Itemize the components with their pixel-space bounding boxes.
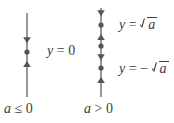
caption-right-value: 0 <box>106 101 113 116</box>
radicand-minus-sqrt-a: a <box>159 62 168 76</box>
right-equilibrium-dot-zero <box>98 43 103 48</box>
label-minus-sqrt-a-sign: − <box>140 61 148 76</box>
left-arrow-up <box>23 61 31 67</box>
radical-tick-icon <box>152 62 158 73</box>
right-arrow-up-upper <box>97 34 105 40</box>
phase-line-figure: y = 0 y = a y = − a a ≤ 0 a > 0 <box>0 0 174 123</box>
radical-minus-sqrt-a: a <box>152 61 169 76</box>
caption-left-a-le-zero: a ≤ 0 <box>4 101 33 117</box>
caption-right-relation: > <box>95 101 103 116</box>
caption-right-variable: a <box>84 101 91 116</box>
radical-overbar: a <box>147 17 157 32</box>
left-phase-line-group <box>23 13 31 97</box>
label-minus-sqrt-a-lhs: y <box>119 61 125 76</box>
label-minus-sqrt-a-relation: = <box>129 61 137 76</box>
right-arrow-down-lower <box>97 54 105 60</box>
left-equilibrium-dot <box>24 49 29 54</box>
label-y-equals-minus-sqrt-a: y = − a <box>119 61 169 76</box>
label-y-equals-zero-lhs: y <box>47 43 53 58</box>
right-phase-line-group <box>97 8 105 97</box>
radical-sqrt-a: a <box>140 17 157 32</box>
radical-overbar: a <box>159 61 169 76</box>
radical-tick-icon <box>140 18 146 29</box>
label-y-equals-sqrt-a: y = a <box>119 17 157 32</box>
right-arrow-down-top <box>97 10 105 16</box>
caption-left-value: 0 <box>26 101 33 116</box>
right-arrow-up-bottom <box>97 77 105 83</box>
label-y-equals-zero-relation: = <box>57 43 65 58</box>
label-sqrt-a-lhs: y <box>119 17 125 32</box>
caption-left-variable: a <box>4 101 11 116</box>
label-y-equals-zero: y = 0 <box>47 44 75 58</box>
caption-left-relation: ≤ <box>15 101 23 116</box>
radicand-sqrt-a: a <box>147 18 156 32</box>
label-sqrt-a-relation: = <box>129 17 137 32</box>
caption-right-a-gt-zero: a > 0 <box>84 101 113 117</box>
right-equilibrium-dot-neg-sqrt-a <box>98 65 103 70</box>
right-equilibrium-dot-sqrt-a <box>98 22 103 27</box>
label-y-equals-zero-rhs: 0 <box>68 43 75 58</box>
left-arrow-down <box>23 37 31 43</box>
